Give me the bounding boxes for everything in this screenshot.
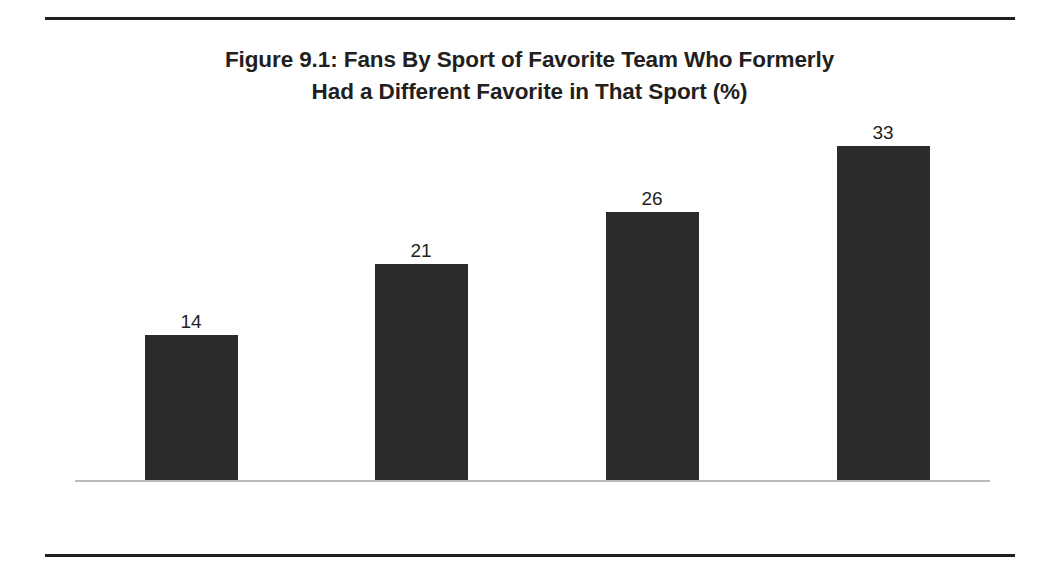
- bar-chart-plot-area: 14 Hockey (NHL) 21 Baseball (MLB) 26 Foo…: [0, 0, 1059, 570]
- bar-football: [606, 212, 699, 480]
- bar-value-label-hockey: 14: [76, 311, 306, 333]
- bar-value-label-basketball: 33: [768, 122, 998, 144]
- bar-basketball: [837, 146, 930, 480]
- bottom-horizontal-rule: [45, 554, 1015, 557]
- bar-hockey: [145, 335, 238, 480]
- figure-container: Figure 9.1: Fans By Sport of Favorite Te…: [0, 0, 1059, 570]
- bar-value-label-football: 26: [537, 188, 767, 210]
- bar-value-label-baseball: 21: [306, 240, 536, 262]
- bar-baseball: [375, 264, 468, 480]
- category-axis-line: [75, 480, 990, 482]
